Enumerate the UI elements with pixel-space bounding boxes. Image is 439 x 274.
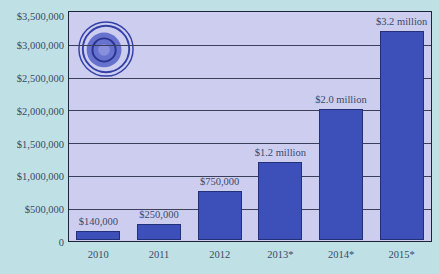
swirl-logo-icon [77,20,135,78]
x-tick-label: 2011 [149,249,170,260]
y-tick-label: $500,000 [25,204,64,215]
gridline [69,143,431,144]
bar-value-label: $140,000 [79,216,118,227]
gridline [69,176,431,177]
x-tick-label: 2012 [209,249,230,260]
gridline [69,110,431,111]
gridline [69,209,431,210]
bar-value-label: $3.2 million [376,16,427,27]
bar-2010 [76,231,120,240]
gridline [69,45,431,46]
bar-value-label: $1.2 million [255,147,306,158]
y-tick-label: $2,000,000 [17,105,64,116]
bar-2015 [380,31,424,241]
bar-value-label: $2.0 million [315,94,366,105]
bar-2014 [319,109,363,240]
y-tick-label: $2,500,000 [17,73,64,84]
bar-2013 [258,162,302,241]
y-tick-label: $1,000,000 [17,171,64,182]
bar-value-label: $250,000 [139,209,178,220]
bar-2011 [137,224,181,240]
gridline [69,78,431,79]
y-tick-label: 0 [59,237,64,248]
bar-2012 [198,191,242,240]
x-tick-label: 2013* [267,249,293,260]
x-tick-label: 2010 [88,249,109,260]
plot-area [68,11,432,242]
x-tick-label: 2015* [389,249,415,260]
y-tick-label: $3,000,000 [17,40,64,51]
bar-chart: 0$500,000$1,000,000$1,500,000$2,000,000$… [0,0,439,274]
y-tick-label: $1,500,000 [17,138,64,149]
bar-value-label: $750,000 [200,176,239,187]
y-tick-label: $3,500,000 [17,10,64,21]
x-tick-label: 2014* [328,249,354,260]
